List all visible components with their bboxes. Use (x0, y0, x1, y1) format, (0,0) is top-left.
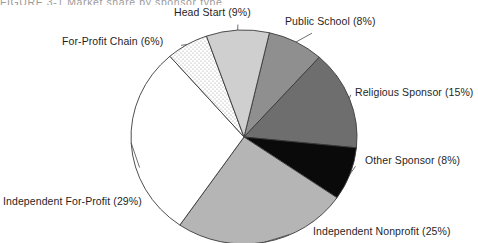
slice-label-for-profit-chain: For-Profit Chain (6%) (62, 35, 163, 47)
pie-chart-figure: FIGURE 3-1 Market share by sponsor type … (0, 0, 478, 243)
leader-line (296, 33, 312, 42)
slice-label-public-school: Public School (8%) (285, 15, 376, 27)
slice-label-other-sponsor: Other Sponsor (8%) (365, 154, 460, 166)
slice-label-independent-nonprofit: Independent Nonprofit (25%) (313, 225, 451, 237)
slice-label-religious-sponsor: Religious Sponsor (15%) (355, 86, 473, 98)
slice-label-head-start: Head Start (9%) (174, 6, 251, 18)
pie-slice-group (131, 30, 357, 243)
leader-line (349, 95, 350, 98)
slice-label-independent-for-profit: Independent For-Profit (29%) (3, 195, 142, 207)
